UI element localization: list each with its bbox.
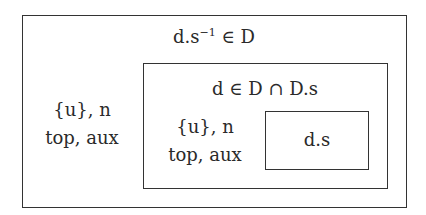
outer-title-base: d.s [173, 26, 199, 47]
outer-title-exponent: −1 [200, 26, 216, 39]
outer-box-title: d.s−1 ∈ D [154, 28, 274, 46]
outer-label-line1: {u}, n [32, 101, 132, 119]
middle-label-line2: top, aux [155, 146, 255, 164]
middle-label-line1: {u}, n [155, 118, 255, 136]
inner-box-label: d.s [265, 131, 369, 149]
outer-label-line2: top, aux [32, 129, 132, 147]
middle-box-title: d ∈ D ∩ D.s [195, 80, 335, 98]
outer-title-rest: ∈ D [216, 26, 255, 47]
